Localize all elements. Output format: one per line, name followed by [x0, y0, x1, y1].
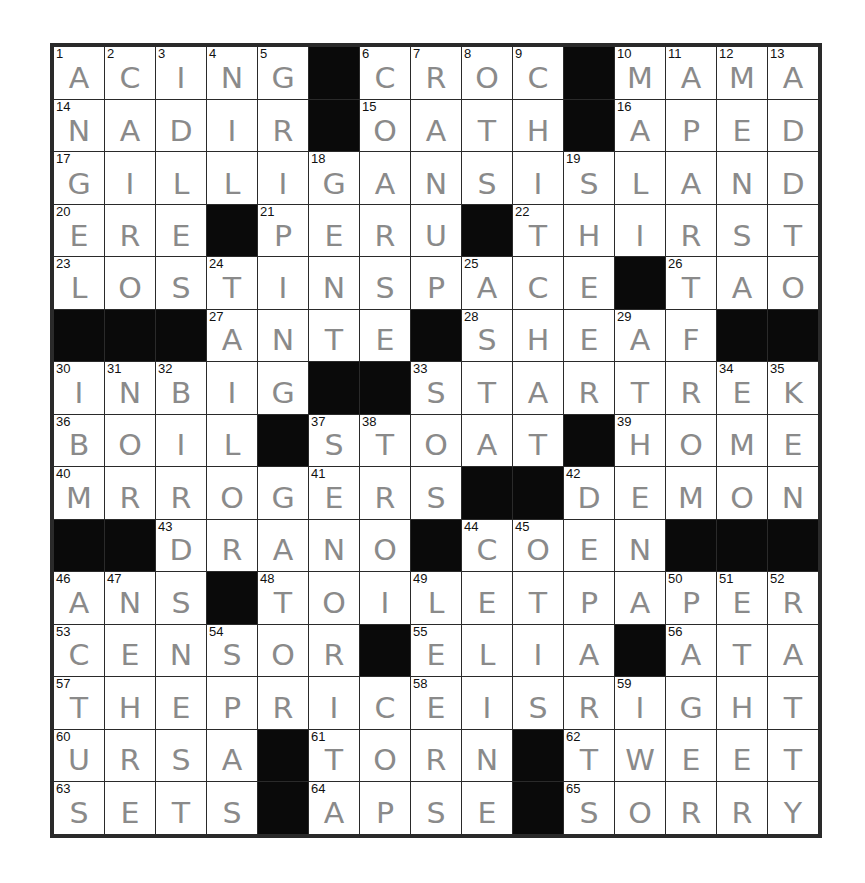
grid-cell[interactable]: 59I [615, 677, 665, 729]
grid-cell[interactable]: N [156, 625, 206, 677]
grid-cell[interactable]: N [309, 257, 359, 309]
grid-cell[interactable]: 41E [309, 467, 359, 519]
grid-cell[interactable]: 2C [105, 47, 155, 99]
grid-cell[interactable]: 27A [207, 310, 257, 362]
grid-cell[interactable]: S [360, 257, 410, 309]
grid-cell[interactable]: 48T [258, 572, 308, 624]
grid-cell[interactable]: E [615, 467, 665, 519]
grid-cell[interactable]: 18G [309, 152, 359, 204]
grid-cell[interactable]: F [666, 310, 716, 362]
grid-cell[interactable]: O [666, 415, 716, 467]
grid-cell[interactable]: L [462, 625, 512, 677]
grid-cell[interactable]: 28S [462, 310, 512, 362]
grid-cell[interactable]: M [717, 415, 767, 467]
grid-cell[interactable]: 37S [309, 415, 359, 467]
grid-cell[interactable]: E [462, 572, 512, 624]
grid-cell[interactable]: C [360, 677, 410, 729]
grid-cell[interactable]: T [462, 362, 512, 414]
grid-cell[interactable]: G [666, 677, 716, 729]
grid-cell[interactable]: 11A [666, 47, 716, 99]
grid-cell[interactable]: N [768, 467, 818, 519]
grid-cell[interactable]: A [462, 415, 512, 467]
grid-cell[interactable]: 45O [513, 520, 563, 572]
grid-cell[interactable]: N [615, 520, 665, 572]
grid-cell[interactable]: S [156, 572, 206, 624]
grid-cell[interactable]: 55E [411, 625, 461, 677]
grid-cell[interactable]: L [615, 152, 665, 204]
grid-cell[interactable]: D [768, 100, 818, 152]
grid-cell[interactable]: P [207, 677, 257, 729]
grid-cell[interactable]: A [666, 152, 716, 204]
grid-cell[interactable]: R [309, 625, 359, 677]
grid-cell[interactable]: 20E [54, 205, 104, 257]
grid-cell[interactable]: E [105, 625, 155, 677]
grid-cell[interactable]: G [258, 362, 308, 414]
grid-cell[interactable]: E [768, 415, 818, 467]
grid-cell[interactable]: R [666, 205, 716, 257]
grid-cell[interactable]: A [105, 100, 155, 152]
grid-cell[interactable]: I [462, 677, 512, 729]
grid-cell[interactable]: S [156, 257, 206, 309]
grid-cell[interactable]: 10M [615, 47, 665, 99]
grid-cell[interactable]: E [156, 205, 206, 257]
grid-cell[interactable]: E [717, 100, 767, 152]
grid-cell[interactable]: T [462, 100, 512, 152]
grid-cell[interactable]: 3I [156, 47, 206, 99]
grid-cell[interactable]: O [360, 520, 410, 572]
grid-cell[interactable]: R [360, 467, 410, 519]
grid-cell[interactable]: 19S [564, 152, 614, 204]
grid-cell[interactable]: D [768, 152, 818, 204]
grid-cell[interactable]: 49L [411, 572, 461, 624]
grid-cell[interactable]: 38T [360, 415, 410, 467]
grid-cell[interactable]: R [666, 362, 716, 414]
grid-cell[interactable]: T [717, 625, 767, 677]
grid-cell[interactable]: H [105, 677, 155, 729]
grid-cell[interactable]: E [564, 520, 614, 572]
grid-cell[interactable]: S [462, 152, 512, 204]
grid-cell[interactable]: T [513, 572, 563, 624]
grid-cell[interactable]: 26T [666, 257, 716, 309]
grid-cell[interactable]: 36B [54, 415, 104, 467]
grid-cell[interactable]: R [258, 100, 308, 152]
grid-cell[interactable]: E [309, 205, 359, 257]
grid-cell[interactable]: 58E [411, 677, 461, 729]
grid-cell[interactable]: E [360, 310, 410, 362]
grid-cell[interactable]: 1A [54, 47, 104, 99]
grid-cell[interactable]: 12M [717, 47, 767, 99]
grid-cell[interactable]: A [564, 625, 614, 677]
grid-cell[interactable]: 13A [768, 47, 818, 99]
grid-cell[interactable]: U [411, 205, 461, 257]
grid-cell[interactable]: W [615, 730, 665, 782]
grid-cell[interactable]: O [717, 467, 767, 519]
grid-cell[interactable]: H [513, 100, 563, 152]
grid-cell[interactable]: T [615, 362, 665, 414]
grid-cell[interactable]: A [615, 572, 665, 624]
grid-cell[interactable]: R [717, 782, 767, 834]
grid-cell[interactable]: 32B [156, 362, 206, 414]
grid-cell[interactable]: 47N [105, 572, 155, 624]
grid-cell[interactable]: A [258, 520, 308, 572]
grid-cell[interactable]: 30I [54, 362, 104, 414]
grid-cell[interactable]: 22T [513, 205, 563, 257]
grid-cell[interactable]: 16A [615, 100, 665, 152]
grid-cell[interactable]: R [105, 730, 155, 782]
grid-cell[interactable]: R [258, 677, 308, 729]
grid-cell[interactable]: 44C [462, 520, 512, 572]
grid-cell[interactable]: D [156, 100, 206, 152]
grid-cell[interactable]: 40M [54, 467, 104, 519]
grid-cell[interactable]: 33S [411, 362, 461, 414]
grid-cell[interactable]: R [360, 205, 410, 257]
grid-cell[interactable]: 6C [360, 47, 410, 99]
grid-cell[interactable]: O [360, 730, 410, 782]
grid-cell[interactable]: 53C [54, 625, 104, 677]
grid-cell[interactable]: E [462, 782, 512, 834]
grid-cell[interactable]: S [411, 467, 461, 519]
grid-cell[interactable]: 7R [411, 47, 461, 99]
grid-cell[interactable]: T [768, 677, 818, 729]
grid-cell[interactable]: N [462, 730, 512, 782]
grid-cell[interactable]: I [513, 625, 563, 677]
grid-cell[interactable]: E [105, 782, 155, 834]
grid-cell[interactable]: Y [768, 782, 818, 834]
grid-cell[interactable]: P [564, 572, 614, 624]
grid-cell[interactable]: I [207, 100, 257, 152]
